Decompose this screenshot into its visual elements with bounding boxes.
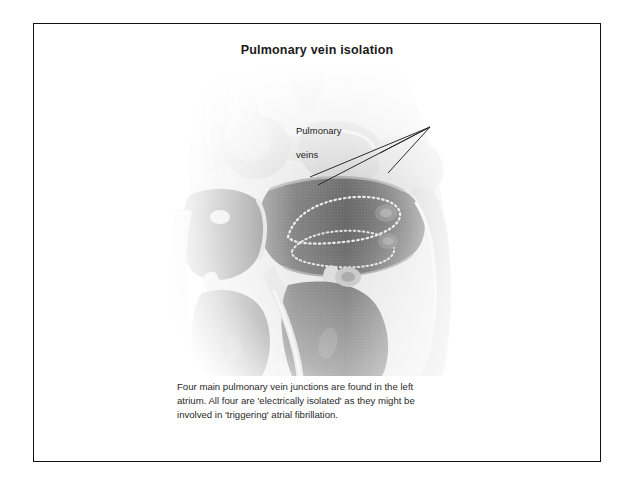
anatomy-group [142,61,482,376]
annotation-line-1: Pulmonary [296,125,341,136]
page-title: Pulmonary vein isolation [34,43,600,57]
heart-cross-section-illustration [142,61,482,376]
caption-line-2: atrium. All four are 'electrically isola… [177,394,507,408]
caption-line-1: Four main pulmonary vein junctions are f… [177,380,507,394]
annotation-pulmonary-veins: Pulmonary veins [296,113,341,161]
figure-fade-top [142,61,482,376]
slide-caption: Four main pulmonary vein junctions are f… [177,380,507,422]
heart-anatomy-svg [142,61,482,376]
slide-frame: Pulmonary vein isolation [33,23,601,462]
caption-line-3: involved in 'triggering' atrial fibrilla… [177,408,507,422]
annotation-line-2: veins [296,149,318,160]
